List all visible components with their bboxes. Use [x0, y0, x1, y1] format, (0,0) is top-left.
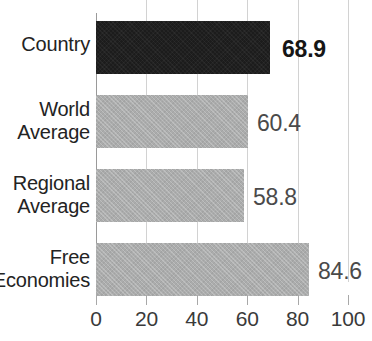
plot-area-row-4	[96, 243, 348, 296]
x-tick-label-80: 80	[286, 307, 309, 331]
tick-mark-20	[146, 295, 147, 305]
plot-area-row-3	[96, 169, 348, 222]
value-label-regional-average: 58.8	[253, 184, 297, 211]
bar-world-average[interactable]	[96, 95, 248, 148]
tick-mark-80	[298, 295, 299, 305]
x-tick-label-0: 0	[90, 307, 101, 331]
gridline-100	[348, 0, 349, 282]
category-label-line: Regional	[0, 172, 90, 195]
category-label-line: Economies	[0, 269, 90, 292]
category-label-country: Country	[0, 33, 90, 56]
tick-mark-40	[197, 295, 198, 305]
x-tick-label-20: 20	[135, 307, 158, 331]
plot-area-row-2	[96, 95, 348, 148]
tick-mark-100	[348, 295, 349, 305]
value-label-free-economies: 84.6	[318, 258, 362, 285]
tick-mark-60	[247, 295, 248, 305]
category-label-world-average: World Average	[0, 98, 90, 144]
bar-regional-average[interactable]	[96, 169, 244, 222]
category-label-line: Free	[0, 246, 90, 269]
category-label-line: Average	[0, 195, 90, 218]
x-tick-label-60: 60	[236, 307, 259, 331]
category-label-line: Average	[0, 121, 90, 144]
category-label-line: Country	[0, 33, 90, 56]
category-label-free-economies: Free Economies	[0, 246, 90, 292]
category-label-regional-average: Regional Average	[0, 172, 90, 218]
value-label-world-average: 60.4	[257, 110, 301, 137]
horizontal-bar-chart: Country 68.9 World Average 60.4 Regional…	[0, 0, 372, 341]
value-label-country: 68.9	[282, 36, 326, 63]
bar-country[interactable]	[96, 21, 270, 74]
tick-mark-0	[96, 295, 97, 305]
bar-free-economies[interactable]	[96, 243, 309, 296]
x-tick-label-100: 100	[331, 307, 365, 331]
category-label-line: World	[0, 98, 90, 121]
x-tick-label-40: 40	[185, 307, 208, 331]
